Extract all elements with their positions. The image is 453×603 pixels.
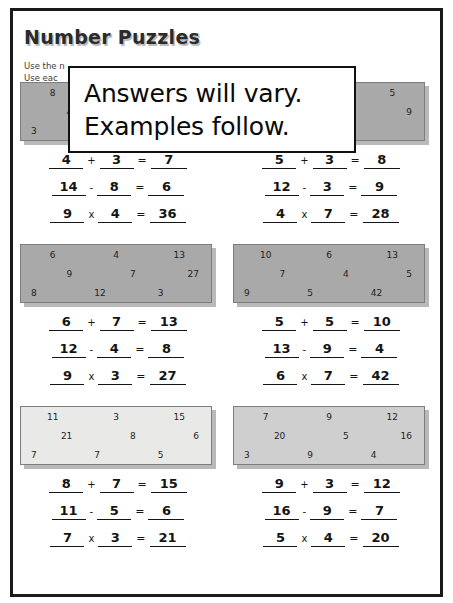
- instruction-line-1: Use the n: [24, 61, 65, 73]
- worksheet-page: Number Puzzles Use the n Use eac 8434+3=…: [0, 0, 453, 603]
- equation-result[interactable]: 7: [361, 503, 397, 520]
- equation-operand-b[interactable]: 7: [100, 314, 134, 331]
- equation-operator: x: [297, 533, 311, 544]
- equation-result[interactable]: 20: [363, 530, 399, 547]
- equation-operator: -: [86, 344, 98, 355]
- equals-sign: =: [134, 478, 151, 491]
- equation-operand-a[interactable]: 6: [49, 314, 83, 331]
- equation-row: 9x4=36: [20, 206, 216, 233]
- number-cell: 7: [234, 264, 297, 283]
- equation-operand-a[interactable]: 5: [263, 530, 297, 547]
- number-cell: 6: [297, 245, 360, 264]
- equals-sign: =: [344, 181, 361, 194]
- equation-row: 12-4=8: [20, 341, 216, 368]
- equals-sign: =: [347, 478, 364, 491]
- equation-result[interactable]: 9: [361, 179, 397, 196]
- equation-operand-b[interactable]: 3: [310, 179, 344, 196]
- equation-result[interactable]: 7: [151, 152, 187, 169]
- note-line-1: Answers will vary.: [84, 77, 354, 110]
- equation-operator: +: [296, 155, 312, 166]
- number-cell: 20: [234, 426, 297, 445]
- equation-list: 8+7=1511-5=67x3=21: [20, 476, 216, 557]
- equation-operand-b[interactable]: 7: [100, 476, 134, 493]
- equation-operand-b[interactable]: 3: [313, 476, 347, 493]
- equation-result[interactable]: 21: [150, 530, 186, 547]
- equation-operand-b[interactable]: 7: [311, 206, 345, 223]
- equation-row: 8+7=15: [20, 476, 216, 503]
- number-cell: 6: [21, 245, 84, 264]
- equation-operand-b[interactable]: 9: [310, 503, 344, 520]
- equation-operand-a[interactable]: 13: [265, 341, 299, 358]
- equation-operand-b[interactable]: 3: [100, 152, 134, 169]
- number-cell: 27: [148, 264, 211, 283]
- equation-operand-a[interactable]: 9: [50, 368, 84, 385]
- equation-result[interactable]: 36: [150, 206, 186, 223]
- equation-operand-b[interactable]: 5: [313, 314, 347, 331]
- number-grid-surface: 791220516394: [233, 406, 425, 465]
- equation-operand-a[interactable]: 12: [265, 179, 299, 196]
- equals-sign: =: [347, 154, 364, 167]
- equation-operand-b[interactable]: 3: [98, 368, 132, 385]
- equals-sign: =: [344, 343, 361, 356]
- equation-result[interactable]: 8: [148, 341, 184, 358]
- equation-result[interactable]: 15: [151, 476, 187, 493]
- equation-result[interactable]: 13: [151, 314, 187, 331]
- equation-operand-b[interactable]: 3: [313, 152, 347, 169]
- equation-operator: +: [83, 317, 99, 328]
- number-cell: 6: [148, 426, 211, 445]
- equals-sign: =: [134, 316, 151, 329]
- equation-result[interactable]: 6: [148, 179, 184, 196]
- equation-row: 5+3=8: [233, 152, 429, 179]
- equation-result[interactable]: 8: [364, 152, 400, 169]
- equation-result[interactable]: 27: [150, 368, 186, 385]
- equals-sign: =: [131, 181, 148, 194]
- equals-sign: =: [345, 208, 362, 221]
- equation-result[interactable]: 6: [148, 503, 184, 520]
- equation-list: 6+7=1312-4=89x3=27: [20, 314, 216, 395]
- equation-operand-a[interactable]: 6: [263, 368, 297, 385]
- equation-operand-b[interactable]: 9: [310, 341, 344, 358]
- number-grid: 641397278123: [20, 244, 216, 307]
- number-cell: 5: [297, 426, 360, 445]
- number-cell: 7: [84, 445, 147, 464]
- equation-operand-a[interactable]: 12: [52, 341, 86, 358]
- equation-operand-a[interactable]: 4: [49, 152, 83, 169]
- equation-operand-b[interactable]: 4: [311, 530, 345, 547]
- equation-result[interactable]: 28: [363, 206, 399, 223]
- equation-operand-a[interactable]: 5: [262, 152, 296, 169]
- equals-sign: =: [131, 343, 148, 356]
- equation-result[interactable]: 42: [363, 368, 399, 385]
- equation-operand-a[interactable]: 9: [262, 476, 296, 493]
- equation-row: 14-8=6: [20, 179, 216, 206]
- equation-row: 16-9=7: [233, 503, 429, 530]
- equation-operator: x: [297, 209, 311, 220]
- equation-row: 13-9=4: [233, 341, 429, 368]
- equation-operand-a[interactable]: 8: [49, 476, 83, 493]
- equation-operand-b[interactable]: 5: [97, 503, 131, 520]
- equation-operand-b[interactable]: 4: [98, 206, 132, 223]
- number-cell: 11: [21, 407, 84, 426]
- equation-operand-a[interactable]: 11: [52, 503, 86, 520]
- equation-result[interactable]: 4: [361, 341, 397, 358]
- equation-operand-a[interactable]: 5: [262, 314, 296, 331]
- equation-operand-a[interactable]: 7: [50, 530, 84, 547]
- equation-operator: -: [86, 182, 98, 193]
- equation-row: 12-3=9: [233, 179, 429, 206]
- equation-operand-b[interactable]: 4: [97, 341, 131, 358]
- equation-operand-b[interactable]: 3: [98, 530, 132, 547]
- equation-result[interactable]: 12: [364, 476, 400, 493]
- equation-row: 11-5=6: [20, 503, 216, 530]
- equation-row: 4+3=7: [20, 152, 216, 179]
- equation-operand-b[interactable]: 8: [97, 179, 131, 196]
- note-line-2: Examples follow.: [84, 110, 354, 143]
- equation-operand-a[interactable]: 9: [50, 206, 84, 223]
- equation-operand-a[interactable]: 4: [263, 206, 297, 223]
- equals-sign: =: [345, 532, 362, 545]
- equals-sign: =: [131, 505, 148, 518]
- equation-result[interactable]: 10: [364, 314, 400, 331]
- number-cell: 9: [297, 407, 360, 426]
- equals-sign: =: [134, 154, 151, 167]
- equation-operand-a[interactable]: 16: [265, 503, 299, 520]
- equation-operand-b[interactable]: 7: [311, 368, 345, 385]
- equation-operand-a[interactable]: 14: [52, 179, 86, 196]
